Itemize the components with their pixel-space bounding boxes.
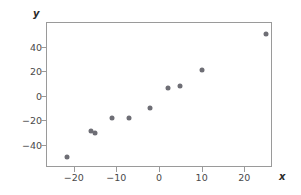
data-point	[65, 155, 70, 160]
x-tick-label: −10	[106, 172, 126, 183]
x-tick-mark	[202, 167, 203, 172]
data-point	[148, 106, 153, 111]
data-point	[110, 115, 115, 120]
x-tick-label: 0	[156, 172, 162, 183]
data-point	[178, 83, 183, 88]
data-point	[127, 115, 132, 120]
y-tick-mark	[41, 47, 46, 48]
y-tick-mark	[41, 96, 46, 97]
x-tick-label: −20	[64, 172, 84, 183]
data-point	[165, 86, 170, 91]
x-tick-mark	[244, 167, 245, 172]
scatter-plot-figure: y x 40200−20−40 −20−1001020	[0, 0, 301, 195]
data-point	[93, 130, 98, 135]
y-tick-mark	[41, 71, 46, 72]
x-tick-label: 10	[196, 172, 208, 183]
x-tick-label: 20	[238, 172, 250, 183]
plot-area-frame	[46, 22, 272, 167]
x-tick-mark	[116, 167, 117, 172]
y-tick-mark	[41, 145, 46, 146]
x-axis-title: x	[279, 171, 285, 182]
data-point	[199, 67, 204, 72]
x-tick-mark	[159, 167, 160, 172]
y-axis-title: y	[33, 8, 40, 19]
y-tick-label: −20	[22, 115, 42, 126]
y-tick-mark	[41, 120, 46, 121]
x-tick-mark	[74, 167, 75, 172]
data-point	[263, 32, 268, 37]
y-tick-label: −40	[22, 139, 42, 150]
